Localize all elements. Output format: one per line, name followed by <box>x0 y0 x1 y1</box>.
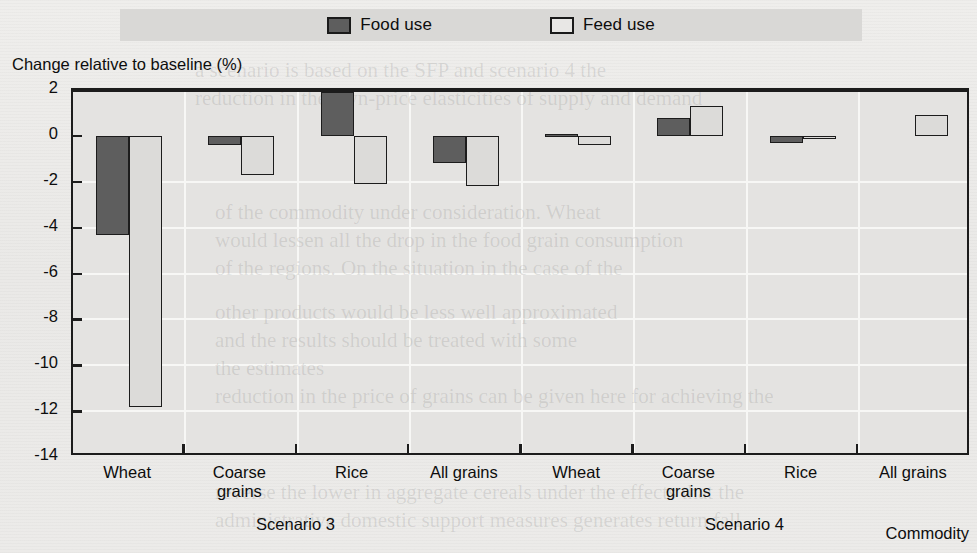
y-axis-tick-label: 2 <box>0 78 58 97</box>
scenario-group-label: Scenario 4 <box>625 515 865 534</box>
y-axis-tick <box>73 181 82 184</box>
x-axis-category-label: Rice <box>745 463 857 482</box>
legend-label-food-use: Food use <box>360 15 432 35</box>
bar-feed-use <box>803 136 836 139</box>
gridline-horizontal <box>73 273 967 275</box>
bar-feed-use <box>354 136 387 184</box>
y-axis-tick-label: -6 <box>0 262 58 281</box>
bar-food-use <box>208 136 241 145</box>
legend-swatch-food-use <box>327 17 351 34</box>
x-axis-category-label: Coarse grains <box>632 463 744 501</box>
bar-food-use <box>321 92 354 136</box>
chart-plot-wrapper <box>71 88 969 455</box>
legend-swatch-feed-use <box>550 17 574 34</box>
zero-baseline <box>73 90 967 92</box>
x-axis-category-label: All grains <box>857 463 969 482</box>
y-axis-tick <box>73 410 82 413</box>
y-axis-tick <box>73 364 82 367</box>
gridline-vertical <box>633 90 635 453</box>
y-axis-tick-label: -14 <box>0 445 58 464</box>
x-axis-category-label: All grains <box>408 463 520 482</box>
x-axis-tick <box>182 444 185 453</box>
bar-feed-use <box>915 115 948 136</box>
bleed-through-line: a scenario is based on the SFP and scena… <box>195 58 606 83</box>
y-axis-tick <box>73 227 82 230</box>
y-axis-tick-label: 0 <box>0 124 58 143</box>
bar-food-use <box>545 134 578 137</box>
x-axis-title: Commodity <box>886 524 969 543</box>
y-axis-tick-label: -4 <box>0 216 58 235</box>
x-axis-tick <box>631 444 634 453</box>
gridline-horizontal <box>73 410 967 412</box>
legend-label-feed-use: Feed use <box>583 15 655 35</box>
y-axis-tick-label: -2 <box>0 170 58 189</box>
bar-food-use <box>657 118 690 136</box>
bar-feed-use <box>466 136 499 186</box>
x-axis-tick <box>519 444 522 453</box>
gridline-horizontal <box>73 227 967 229</box>
gridline-vertical <box>858 90 860 453</box>
x-axis-tick <box>407 444 410 453</box>
gridline-vertical <box>521 90 523 453</box>
bar-food-use <box>433 136 466 164</box>
gridline-vertical <box>409 90 411 453</box>
y-axis-tick-label: -10 <box>0 353 58 372</box>
x-axis-tick <box>744 444 747 453</box>
gridline-vertical <box>184 90 186 453</box>
legend-entry-feed-use: Feed use <box>550 15 655 35</box>
scenario-group-label: Scenario 3 <box>176 515 416 534</box>
gridline-vertical <box>297 90 299 453</box>
x-axis-tick <box>856 444 859 453</box>
gridline-vertical <box>746 90 748 453</box>
y-axis-tick <box>73 318 82 321</box>
bar-feed-use <box>241 136 274 175</box>
y-axis-title: Change relative to baseline (%) <box>12 55 242 74</box>
y-axis-tick <box>73 135 82 138</box>
bar-food-use <box>770 136 803 143</box>
chart-plot-area <box>71 88 969 455</box>
bar-food-use <box>96 136 129 235</box>
gridline-horizontal <box>73 181 967 183</box>
x-axis-category-label: Rice <box>296 463 408 482</box>
bar-feed-use <box>129 136 162 407</box>
y-axis-tick <box>73 273 82 276</box>
x-axis-category-label: Wheat <box>520 463 632 482</box>
bar-feed-use <box>578 136 611 145</box>
chart-legend: Food use Feed use <box>120 9 862 41</box>
y-axis-tick-label: -12 <box>0 399 58 418</box>
gridline-horizontal <box>73 318 967 320</box>
x-axis-tick <box>295 444 298 453</box>
x-axis-category-label: Coarse grains <box>183 463 295 501</box>
legend-entry-food-use: Food use <box>327 15 432 35</box>
gridline-horizontal <box>73 364 967 366</box>
bar-feed-use <box>690 106 723 136</box>
x-axis-category-label: Wheat <box>71 463 183 482</box>
y-axis-tick-label: -8 <box>0 307 58 326</box>
